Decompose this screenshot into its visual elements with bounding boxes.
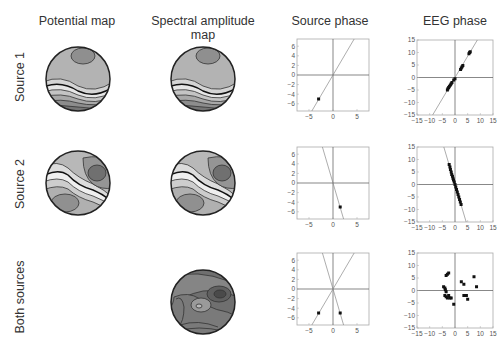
data-point [452,303,455,306]
x-tick-label: 10 [477,224,485,231]
y-tick-label: 15 [408,36,416,43]
x-tick-label: 15 [489,330,497,337]
y-tick-label: 4 [291,52,295,59]
data-point [469,50,472,53]
y-tick-label: 5 [411,168,415,175]
x-tick-label: 0 [331,221,335,228]
y-tick-label: −10 [404,312,415,319]
data-point [317,312,320,315]
data-point [475,285,478,288]
x-tick-label: 5 [355,113,359,120]
y-tick-label: −2 [288,189,296,196]
x-tick-label: 15 [489,224,497,231]
potential-map-source-1 [43,44,113,114]
source-phase-plot-source-2: 6420−2−4−6−505 [297,147,369,219]
eeg-phase-plot-source-2: 151050−5−10−15−15−10−5051015 [417,147,493,222]
x-tick-label: −15 [411,224,422,231]
y-tick-label: 4 [291,266,295,273]
y-tick-label: 10 [408,49,416,56]
x-tick-label: −5 [439,117,447,124]
y-tick-label: 6 [291,151,295,158]
y-tick-label: 0 [411,74,415,81]
source-phase-plot-both-sources: 6420−2−4−6−505 [297,253,369,325]
column-header-spectral-amplitude-map: Spectral amplitude map [138,14,268,42]
y-tick-label: −6 [288,208,296,215]
y-tick-label: 0 [291,71,295,78]
data-point [450,297,453,300]
x-tick-label: 5 [466,330,470,337]
x-tick-label: −15 [411,330,422,337]
x-tick-label: 5 [466,224,470,231]
x-tick-label: 5 [466,117,470,124]
data-point [339,206,342,209]
x-tick-label: 5 [355,327,359,334]
column-header-line-1: Spectral amplitude [138,14,268,28]
y-tick-label: −6 [288,314,296,321]
x-tick-label: 0 [331,113,335,120]
y-tick-label: 0 [411,287,415,294]
row-header-source-2: Source 2 [13,144,27,224]
data-point [445,290,448,293]
spectral-amplitude-map-source-2 [168,148,238,218]
x-tick-label: −5 [305,221,313,228]
y-tick-label: −5 [408,299,416,306]
data-point [465,294,468,297]
y-tick-label: −10 [404,206,415,213]
y-tick-label: −4 [288,199,296,206]
row-header-both-sources: Both sources [13,247,27,347]
y-tick-label: −2 [288,81,296,88]
data-point [461,64,464,67]
data-point [454,77,457,80]
y-tick-label: 0 [291,179,295,186]
column-header-line-2: map [138,28,268,42]
eeg-phase-plot-source-1: 151050−5−10−15−15−10−5051015 [417,40,493,115]
y-tick-label: 10 [408,156,416,163]
y-tick-label: −2 [288,295,296,302]
x-tick-label: 10 [477,330,485,337]
source-phase-plot-source-1: 6420−2−4−6−505 [297,39,369,111]
potential-map-source-2 [43,148,113,218]
y-tick-label: −4 [288,305,296,312]
y-tick-label: 2 [291,62,295,69]
y-tick-label: 0 [411,181,415,188]
y-tick-label: 6 [291,257,295,264]
x-tick-label: −5 [439,224,447,231]
x-tick-label: 0 [453,330,457,337]
spectral-amplitude-map-both-sources [168,267,238,337]
x-tick-label: −15 [411,117,422,124]
x-tick-label: −5 [305,327,313,334]
x-tick-label: 5 [355,221,359,228]
data-point [460,203,463,206]
x-tick-label: −10 [424,330,435,337]
y-tick-label: 5 [411,61,415,68]
x-tick-label: 0 [331,327,335,334]
column-header-source-phase: Source phase [280,14,380,28]
column-header-eeg-phase: EEG phase [405,14,502,28]
y-tick-label: −4 [288,91,296,98]
x-tick-label: −10 [424,224,435,231]
data-point [462,283,465,286]
y-tick-label: 15 [408,249,416,256]
column-header-potential-map: Potential map [22,14,132,28]
y-tick-label: −5 [408,86,416,93]
data-point [466,298,469,301]
y-tick-label: −5 [408,193,416,200]
eeg-phase-plot-both-sources: 151050−5−10−15−15−10−5051015 [417,253,493,328]
y-tick-label: 4 [291,160,295,167]
x-tick-label: −5 [439,330,447,337]
data-point [317,98,320,101]
y-tick-label: 2 [291,276,295,283]
y-tick-label: −6 [288,100,296,107]
y-tick-label: 5 [411,274,415,281]
y-tick-label: 6 [291,43,295,50]
y-tick-label: −10 [404,99,415,106]
x-tick-label: −5 [305,113,313,120]
x-tick-label: −10 [424,117,435,124]
data-point [447,272,450,275]
x-tick-label: 15 [489,117,497,124]
row-header-source-1: Source 1 [13,37,27,117]
spectral-amplitude-map-source-1 [168,44,238,114]
x-tick-label: 0 [453,224,457,231]
data-point [473,275,476,278]
y-tick-label: 10 [408,262,416,269]
